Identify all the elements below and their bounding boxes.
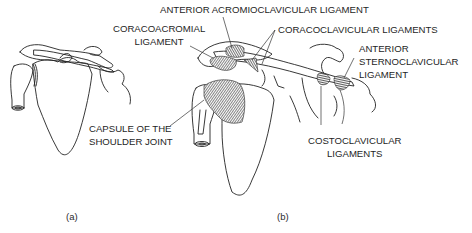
panel-b-caption: (b) (277, 211, 289, 222)
label-capsule-of-shoulder-joint: CAPSULE OF THE SHOULDER JOINT (89, 122, 173, 148)
humerus-a (11, 64, 33, 108)
ligament-coracoclavicular (244, 58, 258, 72)
label-line: CAPSULE OF THE (89, 122, 173, 135)
clavicle-a (34, 50, 114, 72)
scapula-a (33, 58, 92, 155)
ligament-anterior-acromioclavicular (226, 45, 244, 57)
label-line: LIGAMENT (113, 35, 205, 48)
label-line: LIGAMENTS (308, 147, 401, 160)
label-line: SHOULDER JOINT (89, 135, 173, 148)
ligament-capsule (204, 80, 245, 123)
label-coracoclavicular-ligaments: CORACOCLAVICULAR LIGAMENTS (278, 23, 438, 36)
label-line: CORACOCLAVICULAR LIGAMENTS (278, 23, 438, 36)
label-anterior-acromioclavicular-ligament: ANTERIOR ACROMIOCLAVICULAR LIGAMENT (160, 3, 369, 16)
ligament-coracoacromial (210, 56, 236, 70)
label-anterior-sternoclavicular-ligament: ANTERIOR STERNOCLAVICULAR LIGAMENT (359, 42, 459, 81)
label-line: ANTERIOR ACROMIOCLAVICULAR LIGAMENT (160, 3, 369, 16)
label-line: LIGAMENT (359, 68, 459, 81)
label-line: STERNOCLAVICULAR (359, 55, 459, 68)
label-line: COSTOCLAVICULAR (308, 134, 401, 147)
panel-a-caption: (a) (66, 211, 78, 222)
label-costoclavicular-ligaments: COSTOCLAVICULAR LIGAMENTS (308, 134, 401, 160)
label-line: ANTERIOR (359, 42, 459, 55)
label-line: CORACOACROMIAL (113, 22, 205, 35)
label-coracoacromial-ligament: CORACOACROMIAL LIGAMENT (113, 22, 205, 48)
ligament-anterior-sternoclavicular (334, 76, 350, 90)
